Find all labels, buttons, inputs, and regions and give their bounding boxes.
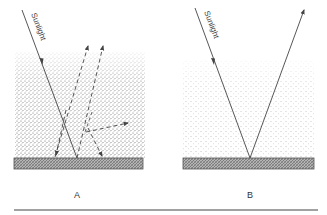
diagram-canvas: Sunlight A Sunlight B	[0, 0, 327, 215]
panel-b: Sunlight B	[183, 8, 315, 200]
haze-fade	[15, 52, 145, 158]
panel-a-label: A	[74, 190, 80, 200]
ground-surface	[14, 158, 143, 169]
panel-a: Sunlight A	[14, 10, 145, 200]
ground-surface	[183, 158, 314, 169]
panel-b-label: B	[247, 190, 253, 200]
haze-fade	[183, 60, 315, 158]
